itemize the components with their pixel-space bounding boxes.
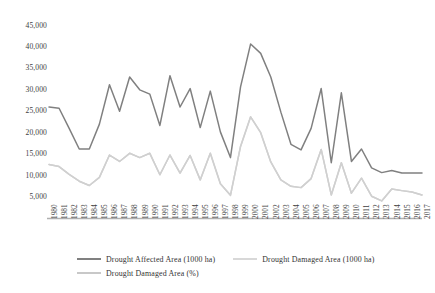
legend-swatch-icon [77, 272, 101, 274]
legend-row-1: Drought Affected Area (1000 ha)Drought D… [0, 252, 435, 266]
legend-row-2: Drought Damaged Area (%) [0, 266, 435, 280]
legend-item[interactable]: Drought Damaged Area (%) [77, 269, 199, 278]
chart-legend: Drought Affected Area (1000 ha)Drought D… [0, 252, 424, 288]
legend-item[interactable]: Drought Damaged Area (1000 ha) [233, 255, 374, 264]
legend-item[interactable]: Drought Affected Area (1000 ha) [77, 255, 215, 264]
legend-swatch-icon [233, 258, 257, 260]
legend-item-label: Drought Damaged Area (1000 ha) [262, 255, 374, 264]
data-series-line [49, 44, 422, 173]
legend-swatch-icon [77, 258, 101, 260]
legend-item-label: Drought Damaged Area (%) [106, 269, 199, 278]
legend-item-label: Drought Affected Area (1000 ha) [106, 255, 215, 264]
plot-lines [0, 0, 424, 230]
plot-area: 5,00010,00015,00020,00025,00030,00035,00… [0, 0, 424, 230]
